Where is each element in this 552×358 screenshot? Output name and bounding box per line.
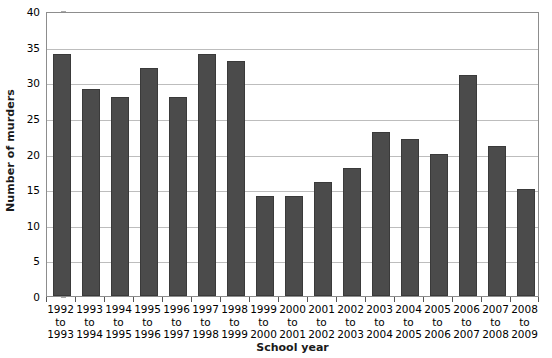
x-tick-mark [510, 297, 511, 302]
x-category-label: 1994to1995 [104, 303, 133, 341]
y-tick-label: 5 [33, 255, 40, 267]
x-category-label-line: to [278, 316, 307, 329]
bar [314, 182, 332, 296]
x-category-label-line: to [481, 316, 510, 329]
x-category-label: 1992to1993 [46, 303, 75, 341]
y-tick-label: 25 [27, 113, 40, 125]
x-category-label-line: to [46, 316, 75, 329]
x-category-label: 1997to1998 [191, 303, 220, 341]
x-category-label: 1999to2000 [249, 303, 278, 341]
bar [459, 75, 477, 296]
x-category-label: 2004to2005 [394, 303, 423, 341]
bar [401, 139, 419, 296]
x-category-label-line: 1993 [46, 328, 75, 341]
x-category-label-line: 2001 [278, 328, 307, 341]
bar [256, 196, 274, 296]
x-category-label-line: 2008 [481, 328, 510, 341]
x-tick-mark [336, 297, 337, 302]
x-category-label-line: to [336, 316, 365, 329]
x-category-label: 1996to1997 [162, 303, 191, 341]
bar [285, 196, 303, 296]
y-axis-title-container: Number of murders [0, 0, 20, 300]
x-tick-mark [133, 297, 134, 302]
x-category-label-line: to [133, 316, 162, 329]
x-category-label-line: 1997 [162, 328, 191, 341]
x-category-label-line: 1992 [46, 303, 75, 316]
x-category-label-line: 2000 [249, 328, 278, 341]
x-category-label-line: 1995 [104, 328, 133, 341]
x-category-label-line: 2004 [365, 328, 394, 341]
x-axis-category-labels: 1992to19931993to19941994to19951995to1996… [46, 303, 539, 343]
x-category-label-line: 1996 [162, 303, 191, 316]
x-tick-mark [249, 297, 250, 302]
bar [111, 97, 129, 297]
x-tick-mark [481, 297, 482, 302]
x-category-label-line: 1996 [133, 328, 162, 341]
x-category-label-line: 2002 [307, 328, 336, 341]
x-category-label-line: 1993 [75, 303, 104, 316]
x-category-label-line: to [452, 316, 481, 329]
x-category-label: 1998to1999 [220, 303, 249, 341]
x-category-label-line: 2000 [278, 303, 307, 316]
bar [488, 146, 506, 296]
x-category-label-line: 1998 [220, 303, 249, 316]
x-tick-mark [162, 297, 163, 302]
x-category-label-line: to [104, 316, 133, 329]
x-category-label-line: to [307, 316, 336, 329]
x-tick-mark [365, 297, 366, 302]
x-category-label: 2003to2004 [365, 303, 394, 341]
x-category-label-line: 2005 [423, 303, 452, 316]
x-category-label-line: 2002 [336, 303, 365, 316]
y-tick-label: 35 [27, 42, 40, 54]
x-category-label-line: 2007 [452, 328, 481, 341]
x-category-label-line: to [75, 316, 104, 329]
x-category-label: 2001to2002 [307, 303, 336, 341]
bar [169, 97, 187, 297]
x-category-label-line: 2007 [481, 303, 510, 316]
x-category-label: 2008to2009 [510, 303, 539, 341]
x-category-label-line: to [510, 316, 539, 329]
x-category-label-line: 2005 [394, 328, 423, 341]
x-tick-mark [220, 297, 221, 302]
x-category-label-line: 1995 [133, 303, 162, 316]
y-axis-tick-labels: 0510152025303540 [20, 0, 40, 358]
x-category-label-line: to [249, 316, 278, 329]
x-tick-mark [423, 297, 424, 302]
y-tick-label: 30 [27, 77, 40, 89]
x-category-label-line: 1999 [220, 328, 249, 341]
x-category-label: 2000to2001 [278, 303, 307, 341]
y-tick-label: 15 [27, 184, 40, 196]
plot-area [46, 12, 539, 297]
x-tick-mark [191, 297, 192, 302]
bar [198, 54, 216, 296]
y-tick-label: 40 [27, 6, 40, 18]
x-category-label-line: 1997 [191, 303, 220, 316]
x-category-label-line: 2009 [510, 328, 539, 341]
x-tick-mark [278, 297, 279, 302]
bar-chart-figure: Number of murders 0510152025303540 1992t… [0, 0, 552, 358]
bar [227, 61, 245, 296]
x-category-label-line: 2004 [394, 303, 423, 316]
x-category-label-line: to [365, 316, 394, 329]
x-category-label-line: 1998 [191, 328, 220, 341]
x-category-label-line: 1994 [104, 303, 133, 316]
x-category-label: 1993to1994 [75, 303, 104, 341]
x-category-label-line: 2003 [336, 328, 365, 341]
bar [343, 168, 361, 296]
x-category-label-line: to [423, 316, 452, 329]
x-category-label: 2006to2007 [452, 303, 481, 341]
x-category-label-line: to [394, 316, 423, 329]
x-category-label: 2007to2008 [481, 303, 510, 341]
x-category-label-line: 2006 [423, 328, 452, 341]
x-tick-mark [75, 297, 76, 302]
y-tick-label: 20 [27, 149, 40, 161]
bar [53, 54, 71, 296]
x-category-label-line: 2008 [510, 303, 539, 316]
x-tick-mark [46, 297, 47, 302]
x-category-label-line: to [162, 316, 191, 329]
x-tick-mark [394, 297, 395, 302]
x-axis-title: School year [46, 341, 539, 354]
y-tick-label: 10 [27, 220, 40, 232]
x-category-label-line: 2001 [307, 303, 336, 316]
x-category-label: 2005to2006 [423, 303, 452, 341]
